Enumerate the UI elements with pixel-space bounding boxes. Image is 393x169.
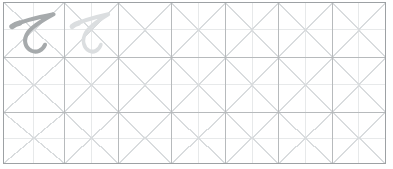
te-character-glyph-example bbox=[4, 3, 64, 57]
practice-cell[interactable] bbox=[226, 58, 279, 112]
practice-cell-trace[interactable] bbox=[65, 3, 118, 57]
practice-cell[interactable] bbox=[279, 3, 332, 57]
practice-cell[interactable] bbox=[119, 3, 172, 57]
practice-cell[interactable] bbox=[172, 113, 225, 163]
practice-cell[interactable] bbox=[4, 58, 64, 112]
practice-cell[interactable] bbox=[172, 58, 225, 112]
practice-cell-example[interactable] bbox=[4, 3, 64, 57]
practice-cell[interactable] bbox=[333, 58, 386, 112]
practice-cell[interactable] bbox=[65, 113, 118, 163]
practice-cell[interactable] bbox=[279, 113, 332, 163]
practice-cell[interactable] bbox=[333, 3, 386, 57]
practice-grid bbox=[3, 2, 386, 164]
practice-cell[interactable] bbox=[172, 3, 225, 57]
practice-cell[interactable] bbox=[119, 58, 172, 112]
practice-cell[interactable] bbox=[226, 113, 279, 163]
practice-cell[interactable] bbox=[279, 58, 332, 112]
practice-cell[interactable] bbox=[119, 113, 172, 163]
practice-cell[interactable] bbox=[4, 113, 64, 163]
te-character-glyph-trace bbox=[65, 3, 118, 57]
practice-cell[interactable] bbox=[333, 113, 386, 163]
practice-cell[interactable] bbox=[226, 3, 279, 57]
practice-cell[interactable] bbox=[65, 58, 118, 112]
